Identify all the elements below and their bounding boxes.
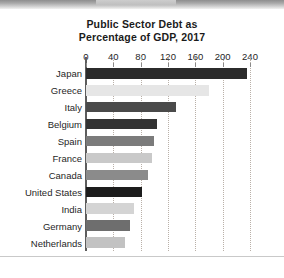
bar-india (86, 203, 134, 213)
category-label-netherlands: Netherlands (31, 237, 82, 248)
x-tick-mark-80 (141, 63, 142, 67)
chart-title-line-2: Percentage of GDP, 2017 (0, 31, 284, 44)
chart-row: Japan (86, 68, 250, 78)
chart-row: Canada (86, 170, 250, 180)
bar-italy (86, 102, 176, 112)
bar-canada (86, 170, 148, 180)
page-footer-whitespace (0, 257, 284, 278)
chart-row: United States (86, 187, 250, 197)
bar-spain (86, 136, 154, 146)
bar-japan (86, 68, 247, 78)
gridline-240 (250, 57, 251, 251)
x-tick-mark-200 (223, 63, 224, 67)
chart-row: Belgium (86, 119, 250, 129)
category-label-belgium: Belgium (48, 119, 82, 130)
chart-row: Italy (86, 102, 250, 112)
chart-row: India (86, 203, 250, 213)
chart-row: Greece (86, 85, 250, 95)
bar-france (86, 153, 152, 163)
scanned-page: Public Sector Debt as Percentage of GDP,… (0, 0, 284, 278)
x-tick-mark-160 (195, 63, 196, 67)
category-label-india: India (61, 203, 82, 214)
x-tick-mark-0 (86, 63, 87, 67)
category-label-greece: Greece (51, 85, 82, 96)
chart-row: Spain (86, 136, 250, 146)
bar-netherlands (86, 237, 125, 247)
bar-belgium (86, 119, 157, 129)
chart-title: Public Sector Debt as Percentage of GDP,… (0, 18, 284, 44)
x-tick-mark-120 (168, 63, 169, 67)
bar-greece (86, 85, 209, 95)
category-label-japan: Japan (56, 68, 82, 79)
chart-row: Germany (86, 220, 250, 230)
chart-figure: Public Sector Debt as Percentage of GDP,… (0, 9, 284, 256)
chart-row: Netherlands (86, 237, 250, 247)
category-label-spain: Spain (58, 136, 82, 147)
bar-united-states (86, 187, 142, 197)
scan-edge-artifact (0, 0, 284, 9)
plot-area: JapanGreeceItalyBelgiumSpainFranceCanada… (86, 65, 250, 251)
chart-title-line-1: Public Sector Debt as (86, 18, 197, 30)
bar-germany (86, 220, 130, 230)
x-axis-tick-labels: 04080120160200240 (0, 51, 284, 63)
chart-row: France (86, 153, 250, 163)
category-label-germany: Germany (43, 220, 82, 231)
category-label-united-states: United States (25, 186, 82, 197)
category-label-france: France (52, 152, 82, 163)
category-label-canada: Canada (49, 169, 82, 180)
x-tick-mark-40 (113, 63, 114, 67)
x-tick-mark-240 (250, 63, 251, 67)
category-label-italy: Italy (65, 102, 82, 113)
scan-edge-highlight (96, 0, 176, 5)
